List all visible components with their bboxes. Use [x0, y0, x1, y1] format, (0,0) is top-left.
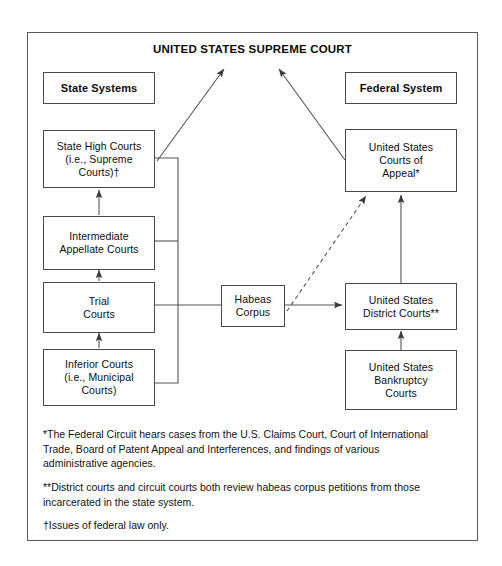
node-label-trial-courts: Trial Courts	[80, 295, 118, 321]
node-label-habeas-corpus: Habeas Corpus	[232, 293, 275, 319]
node-label-us-courts-of-appeal: United States Courts of Appeal*	[366, 141, 436, 180]
node-label-intermediate-appellate-courts: Intermediate Appellate Courts	[56, 230, 141, 256]
node-intermediate-appellate-courts: Intermediate Appellate Courts	[43, 216, 155, 270]
header-label-state-systems: State Systems	[58, 82, 141, 95]
footnote-district-courts: **District courts and circuit courts bot…	[43, 480, 428, 509]
node-label-us-district-courts: United States District Courts**	[360, 294, 442, 320]
footnote-federal-law: †Issues of federal law only.	[43, 518, 428, 533]
node-state-high-courts: State High Courts (i.e., Supreme Courts)…	[43, 130, 155, 188]
node-habeas-corpus: Habeas Corpus	[221, 285, 285, 327]
header-box-federal-system: Federal System	[345, 72, 457, 104]
node-us-district-courts: United States District Courts**	[345, 283, 457, 330]
footnote-federal-circuit: *The Federal Circuit hears cases from th…	[43, 427, 445, 471]
node-label-inferior-courts: Inferior Courts (i.e., Municipal Courts)	[61, 358, 136, 397]
node-us-courts-of-appeal: United States Courts of Appeal*	[345, 129, 457, 192]
court-system-diagram-page: UNITED STATES SUPREME COURT	[0, 0, 502, 566]
node-inferior-courts: Inferior Courts (i.e., Municipal Courts)	[43, 349, 155, 406]
node-label-state-high-courts: State High Courts (i.e., Supreme Courts)…	[54, 140, 145, 179]
node-label-us-bankruptcy-courts: United States Bankruptcy Courts	[366, 361, 436, 400]
header-label-federal-system: Federal System	[357, 82, 446, 95]
page-title: UNITED STATES SUPREME COURT	[27, 43, 478, 55]
node-us-bankruptcy-courts: United States Bankruptcy Courts	[345, 350, 457, 410]
header-box-state-systems: State Systems	[43, 72, 155, 104]
node-trial-courts: Trial Courts	[43, 282, 155, 333]
